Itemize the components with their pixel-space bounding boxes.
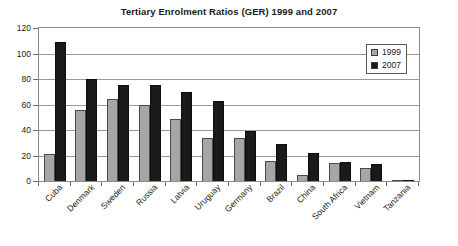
y-axis-tick-label: 100: [17, 49, 31, 58]
x-axis-label-germany: Germany: [223, 183, 254, 214]
x-axis-tick-label: Cuba: [43, 183, 64, 204]
bar-2007-germany: [245, 131, 256, 181]
bar-group: [71, 28, 103, 181]
y-axis-tick-label: 80: [22, 75, 31, 84]
x-axis-label-brazil: Brazil: [264, 183, 285, 204]
legend-swatch-1999-icon: [371, 49, 378, 56]
y-axis: 020406080100120: [0, 27, 38, 183]
x-axis-labels: CubaDenmarkSwedenRussiaLatviaUruguayGerm…: [0, 183, 458, 246]
y-axis-tick-label: 120: [17, 24, 31, 33]
bar-1999-cuba: [44, 154, 55, 181]
x-axis-label-russia: Russia: [134, 183, 159, 208]
x-axis-label-sweden: Sweden: [99, 183, 127, 211]
bar-2007-sweden: [118, 85, 129, 181]
bar-1999-russia: [139, 105, 150, 182]
bar-group: [166, 28, 198, 181]
bar-2007-latvia: [181, 92, 192, 181]
y-axis-tick-label: 20: [22, 151, 31, 160]
bar-2007-vietnam: [371, 164, 382, 181]
x-axis-label-cuba: Cuba: [43, 183, 64, 204]
bar-group: [292, 28, 324, 181]
bar-2007-uruguay: [213, 101, 224, 181]
bar-1999-germany: [234, 138, 245, 181]
bar-group: [102, 28, 134, 181]
chart-container: Tertiary Enrolment Ratios (GER) 1999 and…: [0, 0, 458, 246]
legend-label-2007: 2007: [382, 61, 401, 70]
bar-2007-denmark: [86, 79, 97, 181]
x-axis-tick-label: China: [295, 183, 317, 205]
bar-1999-brazil: [265, 161, 276, 181]
legend-swatch-2007-icon: [371, 62, 378, 69]
bar-1999-vietnam: [360, 168, 371, 181]
x-axis-label-vietnam: Vietnam: [353, 183, 381, 211]
x-axis-tick-label: Latvia: [168, 183, 190, 205]
bar-1999-denmark: [75, 110, 86, 181]
x-axis-tick-label: Uruguay: [193, 183, 222, 212]
bar-group: [39, 28, 71, 181]
x-axis-label-tanzania: Tanzania: [382, 183, 412, 213]
legend-label-1999: 1999: [382, 48, 401, 57]
bar-group: [324, 28, 356, 181]
chart-title: Tertiary Enrolment Ratios (GER) 1999 and…: [0, 6, 458, 17]
x-axis-tick-label: Denmark: [65, 183, 96, 214]
bar-1999-sweden: [107, 99, 118, 181]
bar-2007-south-africa: [340, 162, 351, 181]
bar-2007-china: [308, 153, 319, 181]
x-axis-tick-label: Germany: [223, 183, 254, 214]
y-axis-tick-label: 60: [22, 100, 31, 109]
bar-group: [134, 28, 166, 181]
bar-group: [229, 28, 261, 181]
x-axis-label-uruguay: Uruguay: [193, 183, 222, 212]
x-axis-label-latvia: Latvia: [168, 183, 190, 205]
bar-group: [197, 28, 229, 181]
legend-item-2007: 2007: [371, 61, 401, 70]
y-axis-tick-label: 40: [22, 126, 31, 135]
bar-2007-cuba: [55, 42, 66, 181]
chart-legend: 1999 2007: [366, 44, 407, 74]
bar-group: [261, 28, 293, 181]
bar-2007-russia: [150, 85, 161, 181]
x-axis-label-china: China: [295, 183, 317, 205]
bar-1999-tanzania: [392, 180, 403, 181]
x-axis-tick-label: Russia: [134, 183, 159, 208]
bars-layer: [39, 28, 419, 181]
x-axis-tick-label: Tanzania: [382, 183, 412, 213]
legend-item-1999: 1999: [371, 48, 401, 57]
bar-1999-south-africa: [329, 163, 340, 181]
x-axis-tick-label: Vietnam: [353, 183, 381, 211]
bar-1999-latvia: [170, 119, 181, 181]
bar-2007-brazil: [276, 144, 287, 181]
bar-1999-china: [297, 175, 308, 181]
bar-1999-uruguay: [202, 138, 213, 181]
bar-2007-tanzania: [403, 180, 414, 181]
x-axis-tick-label: Brazil: [264, 183, 285, 204]
x-axis-tick-label: Sweden: [99, 183, 127, 211]
x-axis-label-denmark: Denmark: [65, 183, 96, 214]
